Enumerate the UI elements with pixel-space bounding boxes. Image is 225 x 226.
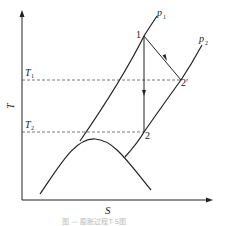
svg-text:p: p [198, 33, 204, 44]
svg-text:1: 1 [163, 14, 166, 20]
x-axis-arrow-icon [206, 198, 213, 203]
isobar-p1-curve [80, 16, 157, 141]
svg-text:p: p [156, 7, 162, 18]
point-2prime-label: 2′ [181, 77, 188, 88]
point-2-label: 2 [145, 130, 150, 141]
svg-text:1: 1 [31, 73, 34, 79]
ts-diagram: T S T 1 T 2 p 1 p 2 1 2′ 2 图 — 膨胀过程T-S图 [0, 0, 225, 226]
real-expansion-line [144, 36, 181, 80]
t1-label: T 1 [25, 67, 34, 79]
svg-text:2: 2 [205, 40, 208, 46]
y-axis-label: T [5, 102, 16, 109]
isentropic-arrow-icon [142, 90, 146, 96]
isobar-p2-curve [125, 45, 202, 157]
point-1-label: 1 [136, 29, 141, 40]
p1-label: p 1 [156, 7, 166, 20]
svg-text:2: 2 [31, 125, 34, 131]
y-axis [20, 10, 25, 200]
x-axis-label: S [105, 204, 111, 216]
y-axis-arrow-icon [20, 10, 25, 17]
t2-label: T 2 [25, 119, 34, 131]
saturation-dome-curve [40, 139, 151, 194]
figure-caption: 图 — 膨胀过程T-S图 [62, 217, 126, 226]
x-axis [22, 198, 213, 203]
p2-label: p 2 [198, 33, 208, 46]
